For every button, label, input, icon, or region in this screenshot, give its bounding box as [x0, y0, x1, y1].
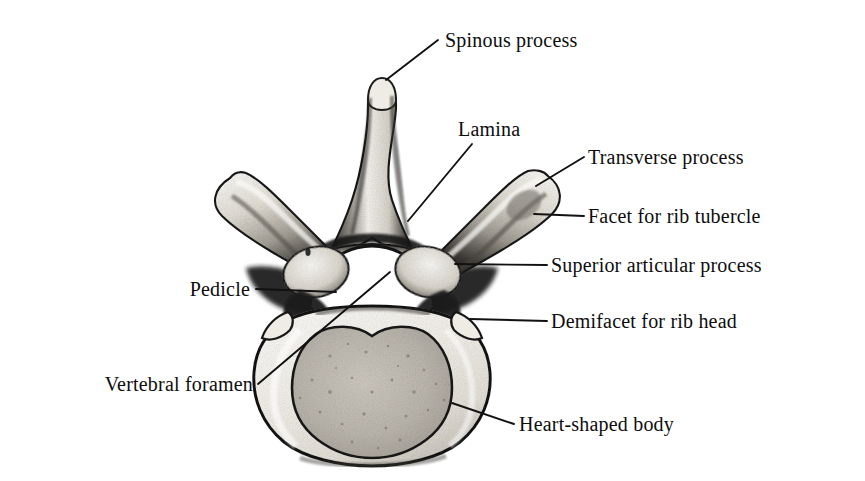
label-superior-articular-process: Superior articular process — [551, 254, 762, 277]
anatomical-figure: Spinous process Lamina Transverse proces… — [0, 0, 865, 481]
leader-superior-articular-process — [455, 264, 547, 265]
label-demifacet-for-rib-head: Demifacet for rib head — [551, 310, 737, 332]
label-lamina: Lamina — [458, 118, 520, 140]
vertebra-illustration: Spinous process Lamina Transverse proces… — [0, 0, 865, 481]
label-pedicle: Pedicle — [190, 278, 250, 300]
label-heart-shaped-body: Heart-shaped body — [519, 413, 674, 436]
label-facet-for-rib-tubercle: Facet for rib tubercle — [588, 205, 761, 227]
label-vertebral-foramen: Vertebral foramen — [105, 373, 253, 395]
label-spinous-process: Spinous process — [445, 29, 577, 52]
label-transverse-process: Transverse process — [588, 146, 744, 169]
nutrient-foramen-speck — [305, 248, 310, 256]
